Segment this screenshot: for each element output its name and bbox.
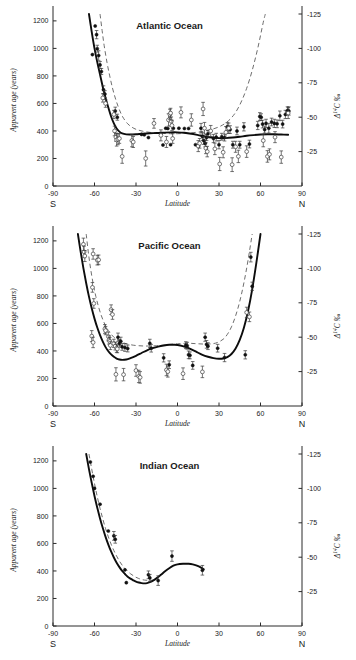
y-left-tick-label: 1200 [33,457,49,464]
x-tick-label: 30 [215,190,223,197]
data-point-open [91,285,95,289]
x-tick-label: 0 [176,630,180,637]
data-point-filled [281,123,284,126]
data-point-filled [215,136,218,139]
north-label: N [299,199,306,209]
x-tick-label: 0 [176,410,180,417]
panel-title: Indian Ocean [140,460,200,471]
data-point-open [83,254,87,258]
data-point-filled [260,116,263,119]
panel-indian: 020040060080010001200-25-50-75-100-125-9… [0,440,356,660]
y-right-tick-label: -25 [307,368,317,375]
data-point-open [273,135,277,139]
data-series [91,24,291,148]
axes: 020040060080010001200-25-50-75-100-125-9… [9,446,342,649]
y-right-axis-label: Δ14C ‰ [332,313,342,339]
data-point-open [159,133,163,137]
y-left-tick-label: 600 [37,540,49,547]
data-point-open [245,311,249,315]
y-left-tick-label: 800 [37,513,49,520]
data-series [89,460,204,585]
data-point-open [201,107,205,111]
data-point-filled [143,133,146,136]
data-point-open [213,147,217,151]
data-point-filled [278,114,281,117]
data-point-filled [162,356,165,359]
data-point-open [120,155,124,159]
data-point-filled [119,340,122,343]
data-point-filled [100,70,103,73]
data-point-filled [98,503,101,506]
data-point-open [236,155,240,159]
data-point-open [268,152,272,156]
data-point-open [112,113,116,117]
data-point-filled [186,344,189,347]
y-right-tick-label: -50 [307,554,317,561]
data-point-filled [191,364,194,367]
data-point-filled [267,127,270,130]
data-point-open [248,315,252,319]
x-tick-label: 30 [215,630,223,637]
data-point-open [230,163,234,167]
panel-title: Pacific Ocean [138,240,201,251]
x-tick-label: -90 [48,190,58,197]
fit-curve-solid [78,234,261,360]
north-label: N [299,639,306,649]
data-point-open [227,126,231,130]
x-tick-label: 90 [298,630,306,637]
y-left-tick-label: 1200 [33,17,49,24]
data-point-open [221,150,225,154]
data-point-open [170,124,174,128]
data-point-open [261,139,265,143]
data-point-open [122,373,126,377]
data-point-filled [244,353,247,356]
data-point-filled [170,555,173,558]
data-point-open [218,162,222,166]
y-left-tick-label: 200 [37,155,49,162]
data-point-filled [276,122,279,125]
data-point-filled [242,125,245,128]
y-left-tick-label: 400 [37,348,49,355]
y-left-tick-label: 800 [37,293,49,300]
y-axis-label: Apparent age (years) [9,68,18,133]
data-point-filled [217,143,220,146]
y-right-axis-label: Δ14C ‰ [332,533,342,559]
y-right-tick-label: -125 [307,231,321,238]
x-tick-label: 60 [257,410,265,417]
data-point-filled [125,581,128,584]
data-point-open [169,111,173,115]
data-point-filled [256,124,259,127]
x-tick-label: 30 [215,410,223,417]
x-tick-label: -90 [48,630,58,637]
x-tick-label: -30 [131,410,141,417]
y-left-tick-label: 400 [37,568,49,575]
data-point-open [165,140,169,144]
data-point-open [189,118,193,122]
data-point-open [97,258,101,262]
y-axis-label: Apparent age (years) [9,508,18,573]
data-point-open [201,370,205,374]
data-point-open [144,157,148,161]
y-right-tick-label: -125 [307,11,321,18]
data-point-open [166,370,170,374]
y-right-tick-label: -100 [307,485,321,492]
x-tick-label: 90 [298,190,306,197]
data-point-open [209,129,213,133]
fit-curve-solid [86,454,204,583]
ocean-radiocarbon-figure: 020040060080010001200-25-50-75-100-125-9… [0,0,356,660]
data-point-open [118,137,122,141]
x-axis-label: Latitude [164,199,191,208]
data-point-filled [114,538,117,541]
data-point-filled [150,347,153,350]
data-point-filled [261,123,264,126]
x-tick-label: -60 [89,630,99,637]
fit-curve-dashed [100,14,265,134]
data-point-open [198,141,202,145]
data-point-filled [157,579,160,582]
y-right-tick-label: -75 [307,519,317,526]
data-point-open [131,140,135,144]
y-right-tick-label: -75 [307,299,317,306]
data-point-filled [126,347,129,350]
data-point-open [111,313,115,317]
data-point-filled [248,142,251,145]
